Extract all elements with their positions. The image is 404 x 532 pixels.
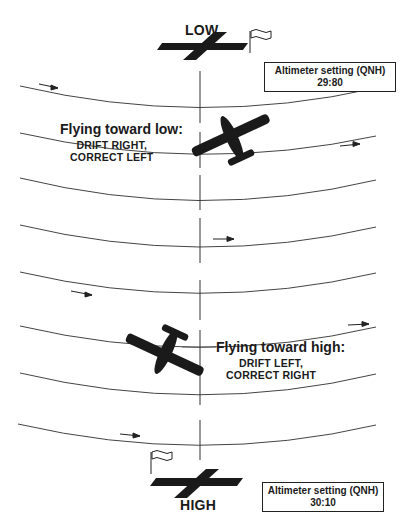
airplane-toward-low-icon: [184, 98, 281, 178]
altimeter-high-box: Altimeter setting (QNH) 30:10: [262, 482, 384, 512]
flying-toward-low-line2: CORRECT LEFT: [70, 151, 153, 163]
isobar-4: [20, 225, 376, 247]
altimeter-low-value: 29:80: [269, 77, 391, 89]
isobar-8: [18, 424, 376, 445]
flag-high-icon: [151, 451, 172, 475]
flying-toward-high-heading: Flying toward high:: [216, 339, 345, 355]
flying-toward-low-line1: DRIFT RIGHT,: [70, 139, 153, 151]
runway-high-icon: [150, 469, 243, 498]
low-pressure-label: LOW: [185, 22, 219, 38]
flag-low-icon: [250, 30, 271, 54]
isobar-7: [20, 373, 376, 395]
flying-toward-high-line1: DRIFT LEFT,: [226, 357, 316, 369]
flying-toward-high-instruction: DRIFT LEFT, CORRECT RIGHT: [226, 357, 316, 381]
wind-arrow-icon: [120, 433, 140, 438]
isobar-3: [20, 178, 376, 201]
altimeter-low-title: Altimeter setting (QNH): [269, 65, 391, 77]
wind-arrow-icon: [39, 84, 58, 90]
wind-arrow-icon: [71, 291, 92, 297]
flying-toward-high-line2: CORRECT RIGHT: [226, 369, 316, 381]
flying-toward-low-heading: Flying toward low:: [60, 121, 183, 137]
wind-arrow-icon: [348, 322, 369, 327]
high-pressure-label: HIGH: [180, 497, 216, 513]
altimeter-high-title: Altimeter setting (QNH): [267, 485, 379, 497]
wind-arrow-icon: [213, 237, 234, 242]
isobar-5: [20, 272, 376, 293]
altimeter-low-box: Altimeter setting (QNH) 29:80: [264, 62, 396, 92]
flying-toward-low-instruction: DRIFT RIGHT, CORRECT LEFT: [70, 139, 153, 163]
altimeter-high-value: 30:10: [267, 497, 379, 509]
